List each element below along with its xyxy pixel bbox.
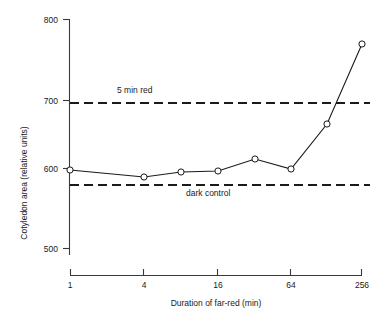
y-tick-label-600: 600	[28, 164, 58, 174]
data-point	[252, 156, 258, 162]
data-point	[359, 41, 365, 47]
data-point	[288, 166, 294, 172]
y-axis-title: Cotyledon area (relative units)	[19, 123, 29, 243]
data-point	[67, 167, 73, 173]
y-axis-title-wrap: Cotyledon area (relative units)	[8, 60, 20, 260]
y-tick-label-500: 500	[28, 244, 58, 254]
chart-figure: 800 700 600 500 1 4 16 64 256 Duration o…	[0, 0, 387, 322]
data-line	[70, 44, 362, 177]
data-point	[215, 168, 221, 174]
annotation-5-min-red: 5 min red	[117, 85, 152, 95]
y-tick-label-700: 700	[28, 96, 58, 106]
data-point	[324, 121, 330, 127]
data-point	[178, 169, 184, 175]
x-tick-label-256: 256	[348, 280, 376, 290]
chart-canvas	[0, 0, 387, 322]
x-tick-label-4: 4	[130, 280, 158, 290]
y-tick-label-800: 800	[28, 15, 58, 25]
annotation-dark-control: dark control	[186, 188, 230, 198]
data-point	[141, 174, 147, 180]
x-tick-label-1: 1	[56, 280, 84, 290]
x-axis-title: Duration of far-red (min)	[70, 298, 362, 308]
x-tick-label-64: 64	[277, 280, 305, 290]
x-tick-label-16: 16	[204, 280, 232, 290]
